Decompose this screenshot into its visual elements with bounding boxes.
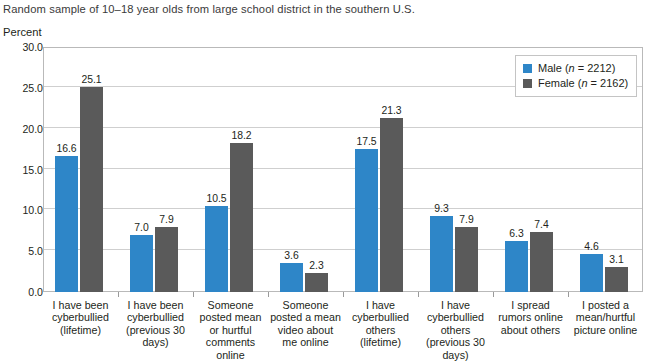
x-axis-label-line: cyberbullied [52, 311, 109, 323]
bar-male[interactable]: 6.3 [505, 241, 528, 292]
x-axis-label-line: Someone [208, 299, 254, 311]
x-axis-label-line: (previous 30 [126, 324, 185, 336]
y-axis-tick-label: 0.0 [5, 287, 43, 298]
bar-group: 16.625.1 [43, 47, 118, 292]
x-axis-label-line: (lifetime) [360, 336, 401, 348]
y-axis-tick-label: 5.0 [5, 246, 43, 257]
x-axis-tick [343, 292, 344, 297]
legend-label-male: Male (n = 2212) [538, 62, 615, 75]
x-axis-label-line: online [216, 349, 245, 361]
y-axis-title: Percent [3, 26, 42, 39]
x-axis-label-line: comments [206, 336, 255, 348]
x-axis-label-line: others [366, 324, 396, 336]
bar-group: 17.521.3 [343, 47, 418, 292]
bar-value-label: 7.9 [159, 214, 173, 225]
bar-value-label: 18.2 [231, 130, 251, 141]
x-axis-label-line: mean/hurtful [576, 311, 635, 323]
legend-item-female[interactable]: Female (n = 2162) [523, 76, 628, 91]
bar-female[interactable]: 7.4 [530, 232, 553, 292]
x-axis-label-line: I spread [511, 299, 550, 311]
bar-male[interactable]: 7.0 [130, 235, 153, 292]
chart-subtitle: Random sample of 10–18 year olds from la… [3, 3, 415, 16]
bar-group: 3.62.3 [268, 47, 343, 292]
legend-item-male[interactable]: Male (n = 2212) [523, 61, 628, 76]
x-axis-label-line: Someone [283, 299, 329, 311]
legend-swatch-male-icon [523, 64, 532, 73]
bar-value-label: 7.4 [534, 219, 548, 230]
bar-female[interactable]: 25.1 [80, 87, 103, 292]
bar-female[interactable]: 21.3 [380, 118, 403, 292]
x-axis-tick [568, 292, 569, 297]
legend-swatch-female-icon [523, 79, 532, 88]
x-axis-label-line: I have been [53, 299, 109, 311]
x-axis-label-line: I have been [128, 299, 184, 311]
bar-male[interactable]: 10.5 [205, 206, 228, 292]
bar-value-label: 4.6 [584, 241, 598, 252]
x-axis-label-line: cyberbullied [427, 311, 484, 323]
x-axis-label-line: or hurtful [209, 324, 251, 336]
x-axis-category-label: I posted amean/hurtfulpicture online [568, 299, 643, 336]
x-axis-category-label: I have beencyberbullied(lifetime) [43, 299, 118, 336]
bar-value-label: 6.3 [509, 228, 523, 239]
x-axis-label-line: about others [501, 324, 560, 336]
x-axis-label-line: me online [282, 336, 328, 348]
x-axis-label-line: others [441, 324, 471, 336]
x-axis-label-line: I have [366, 299, 395, 311]
x-axis-category-label: I have beencyberbullied(previous 30days) [118, 299, 193, 349]
bar-value-label: 16.6 [56, 143, 76, 154]
bar-group: 9.37.9 [418, 47, 493, 292]
y-axis-tick-label: 20.0 [5, 124, 43, 135]
bar-female[interactable]: 18.2 [230, 143, 253, 292]
bar-value-label: 17.5 [356, 136, 376, 147]
bar-value-label: 9.3 [434, 203, 448, 214]
x-axis-category-label: I havecyberbulliedothers(lifetime) [343, 299, 418, 349]
x-axis-label-line: picture online [574, 324, 638, 336]
bar-value-label: 21.3 [381, 105, 401, 116]
bar-male[interactable]: 4.6 [580, 254, 603, 292]
legend-label-female: Female (n = 2162) [538, 77, 628, 90]
bar-female[interactable]: 7.9 [455, 227, 478, 292]
x-axis-tick [193, 292, 194, 297]
x-axis-tick [268, 292, 269, 297]
bar-male[interactable]: 9.3 [430, 216, 453, 292]
bar-value-label: 3.1 [609, 254, 623, 265]
cyberbullying-grouped-bar-chart: Random sample of 10–18 year olds from la… [0, 0, 654, 362]
chart-legend: Male (n = 2212) Female (n = 2162) [515, 55, 637, 97]
bar-value-label: 3.6 [284, 250, 298, 261]
x-axis-labels: I have beencyberbullied(lifetime)I have … [43, 299, 643, 361]
y-axis-tick-label: 10.0 [5, 205, 43, 216]
y-axis-tick-label: 25.0 [5, 83, 43, 94]
x-axis-label-line: posted a mean [270, 311, 341, 323]
x-axis-label-line: days) [142, 336, 168, 348]
bar-group: 10.518.2 [193, 47, 268, 292]
x-axis-label-line: I have [441, 299, 470, 311]
x-axis-label-line: video about [278, 324, 333, 336]
x-axis-category-label: Someoneposted a meanvideo aboutme online [268, 299, 343, 349]
bar-female[interactable]: 3.1 [605, 267, 628, 292]
bar-male[interactable]: 3.6 [280, 263, 303, 292]
bar-group: 7.07.9 [118, 47, 193, 292]
x-axis-category-label: I havecyberbulliedothers(previous 30days… [418, 299, 493, 361]
y-axis-tick-label: 30.0 [5, 42, 43, 53]
x-axis-label-line: posted mean [200, 311, 262, 323]
x-axis-tick [418, 292, 419, 297]
bar-value-label: 25.1 [81, 74, 101, 85]
bar-female[interactable]: 2.3 [305, 273, 328, 292]
x-axis-label-line: cyberbullied [352, 311, 409, 323]
bar-male[interactable]: 17.5 [355, 149, 378, 292]
x-axis-ticks [43, 292, 643, 297]
x-axis-category-label: Someoneposted meanor hurtfulcommentsonli… [193, 299, 268, 361]
bar-female[interactable]: 7.9 [155, 227, 178, 292]
y-axis: 0.05.010.015.020.025.030.0 [0, 47, 43, 293]
x-axis-label-line: (previous 30 [426, 336, 485, 348]
y-axis-tick-label: 15.0 [5, 165, 43, 176]
x-axis-label-line: (lifetime) [60, 324, 101, 336]
x-axis-tick [118, 292, 119, 297]
x-axis-tick [493, 292, 494, 297]
x-axis-label-line: I posted a [582, 299, 629, 311]
bar-value-label: 10.5 [206, 193, 226, 204]
x-axis-label-line: rumors online [498, 311, 563, 323]
x-axis-category-label: I spreadrumors onlineabout others [493, 299, 568, 336]
bar-male[interactable]: 16.6 [55, 156, 78, 292]
x-axis-label-line: cyberbullied [127, 311, 184, 323]
